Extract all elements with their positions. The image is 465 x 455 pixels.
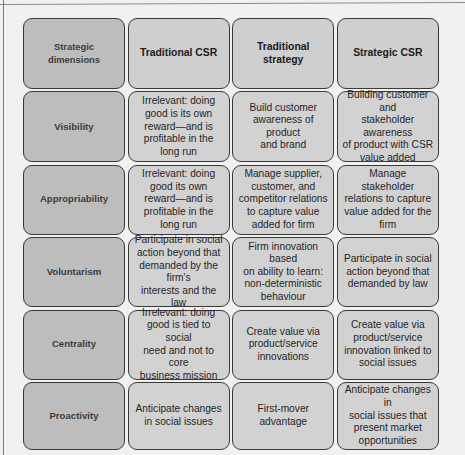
table-cell: Firm innovation based on ability to lear…: [232, 237, 334, 307]
header-traditional-strategy: Traditional strategy: [232, 18, 334, 89]
table-cell: Manage supplier, customer, and competito…: [232, 165, 334, 235]
table-cell: Irrelevant: doing good its own reward—an…: [128, 165, 230, 235]
cell-text: Irrelevant: doing good is its own reward…: [142, 95, 215, 158]
table-cell: Participate in social action beyond that…: [337, 237, 439, 307]
document-page: Strategic dimensions Traditional CSR Tra…: [0, 0, 465, 455]
table-cell: Irrelevant: doing good is tied to social…: [128, 310, 230, 380]
header-label: Traditional CSR: [140, 47, 217, 60]
cell-text: Participate in social action beyond that…: [344, 253, 432, 291]
cell-text: Anticipate changes in social issues: [136, 403, 222, 428]
table-cell: Create value via product/service innovat…: [337, 310, 439, 380]
dimension-label: Appropriability: [40, 193, 108, 206]
table-cell: Create value via product/service innovat…: [232, 310, 334, 380]
header-label: Strategic CSR: [353, 47, 422, 60]
dimension-centrality: Centrality: [23, 310, 125, 380]
cell-text: Firm innovation based on ability to lear…: [237, 241, 329, 304]
page-left-rule: [3, 0, 4, 455]
cell-text: Irrelevant: doing good is tied to social…: [133, 307, 225, 383]
header-label: Strategic dimensions: [28, 41, 120, 66]
table-cell: Build customer awareness of product and …: [232, 91, 334, 162]
cell-text: Building customer and stakeholder awaren…: [342, 89, 434, 165]
cell-text: Create value via product/service innovat…: [246, 326, 320, 364]
cell-text: Anticipate changes in social issues that…: [342, 384, 434, 447]
dimension-label: Visibility: [54, 121, 93, 134]
cell-text: Create value via product/service innovat…: [344, 319, 431, 369]
cell-text: Irrelevant: doing good its own reward—an…: [142, 168, 215, 231]
table-cell: Anticipate changes in social issues that…: [337, 382, 439, 450]
table-cell: Participate in social action beyond that…: [128, 237, 230, 307]
cell-text: First-mover advantage: [237, 403, 329, 428]
cell-text: Manage stakeholder relations to capture …: [342, 168, 434, 231]
dimension-visibility: Visibility: [23, 91, 125, 162]
table-cell: Anticipate changes in social issues: [128, 382, 230, 450]
cell-text: Participate in social action beyond that…: [133, 234, 225, 310]
dimension-appropriability: Appropriability: [23, 165, 125, 235]
header-strategic-csr: Strategic CSR: [337, 18, 439, 89]
dimension-label: Centrality: [52, 338, 96, 351]
header-traditional-csr: Traditional CSR: [128, 18, 230, 89]
dimension-proactivity: Proactivity: [23, 382, 125, 450]
dimension-label: Voluntarism: [47, 266, 102, 279]
table-cell: Building customer and stakeholder awaren…: [337, 91, 439, 162]
header-strategic-dimensions: Strategic dimensions: [23, 18, 125, 89]
strategic-csr-comparison-table: Strategic dimensions Traditional CSR Tra…: [23, 18, 439, 450]
table-cell: First-mover advantage: [232, 382, 334, 450]
header-label: Traditional strategy: [237, 41, 329, 66]
dimension-voluntarism: Voluntarism: [23, 237, 125, 307]
cell-text: Manage supplier, customer, and competito…: [239, 168, 328, 231]
table-cell: Irrelevant: doing good is its own reward…: [128, 91, 230, 162]
table-cell: Manage stakeholder relations to capture …: [337, 165, 439, 235]
page-top-rule: [0, 2, 465, 5]
dimension-label: Proactivity: [49, 410, 98, 423]
cell-text: Build customer awareness of product and …: [237, 102, 329, 152]
